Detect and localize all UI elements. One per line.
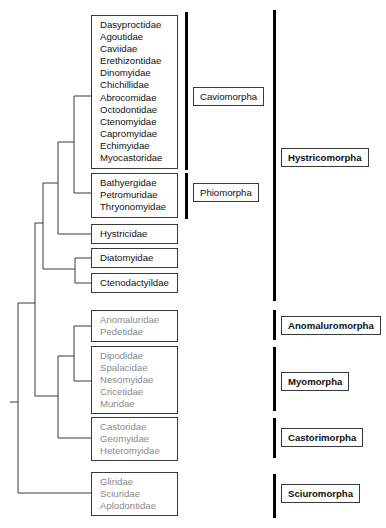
family-name: Bathyergidae [100, 177, 177, 189]
family-name: Dipodidae [100, 350, 177, 362]
family-name: Agoutidae [100, 31, 177, 43]
family-name: Erethizontidae [100, 55, 177, 67]
family-box-phiomorpha: Bathyergidae Petromuridae Thryonomyidae [91, 173, 178, 218]
family-box-ctenodactylidae: Ctenodactyildae [91, 273, 178, 293]
myomorpha-bracket-bar [273, 347, 276, 411]
family-name: Octodontidae [100, 104, 177, 116]
family-name: Chichillidae [100, 79, 177, 91]
castorimorpha-label: Castorimorpha [281, 428, 363, 447]
family-box-castorimorpha: Castoridae Geomyidae Heteromyidae [91, 417, 178, 461]
family-box-caviomorpha: Dasyproctidae Agoutidae Caviidae Erethiz… [91, 15, 178, 169]
family-box-myomorpha: Dipodidae Spalacidae Nesomyidae Cricetid… [91, 346, 178, 414]
family-box-diatomyidae: Diatomyidae [91, 248, 178, 268]
sciuromorpha-bracket-bar [273, 474, 276, 518]
family-name: Ctenomyidae [100, 116, 177, 128]
anomaluromorpha-bracket-bar [273, 310, 276, 340]
family-name: Nesomyidae [100, 374, 177, 386]
family-name: Diatomyidae [100, 252, 177, 264]
family-name: Thryonomyidae [100, 201, 177, 213]
family-name: Petromuridae [100, 189, 177, 201]
family-box-hystricidae: Hystricidae [91, 224, 178, 244]
castorimorpha-bracket-bar [273, 418, 276, 458]
family-name: Heteromyidae [100, 445, 177, 457]
family-name: Aplodontidae [100, 500, 177, 512]
caviomorpha-bracket-bar [185, 12, 188, 170]
myomorpha-label: Myomorpha [281, 372, 349, 391]
sciuromorpha-label: Sciuromorpha [281, 484, 360, 503]
family-name: Castoridae [100, 421, 177, 433]
caviomorpha-label: Caviomorpha [193, 87, 264, 106]
phiomorpha-label: Phiomorpha [193, 183, 259, 202]
family-name: Geomyidae [100, 433, 177, 445]
phiomorpha-bracket-bar [185, 173, 188, 219]
family-name: Echimyidae [100, 140, 177, 152]
family-name: Muridae [100, 398, 177, 410]
family-name: Myocastoridae [100, 152, 177, 164]
family-box-sciuromorpha: Gliridae Sciuridae Aplodontidae [91, 472, 178, 516]
family-name: Cricetidae [100, 386, 177, 398]
family-box-anomaluromorpha: Anomaluridae Pedetidae [91, 310, 178, 342]
family-name: Anomaluridae [100, 314, 177, 326]
family-name: Abrocomidae [100, 92, 177, 104]
family-name: Caviidae [100, 43, 177, 55]
hystricomorpha-bracket-bar [273, 10, 276, 301]
anomaluromorpha-label: Anomaluromorpha [281, 316, 381, 335]
family-name: Spalacidae [100, 362, 177, 374]
phylogenetic-tree-branches [0, 0, 386, 528]
family-name: Pedetidae [100, 326, 177, 338]
family-name: Sciuridae [100, 488, 177, 500]
family-name: Ctenodactyildae [100, 277, 177, 289]
family-name: Capromyidae [100, 128, 177, 140]
family-name: Dasyproctidae [100, 19, 177, 31]
family-name: Hystricidae [100, 228, 177, 240]
family-name: Dinomyidae [100, 67, 177, 79]
family-name: Gliridae [100, 476, 177, 488]
hystricomorpha-label: Hystricomorpha [281, 148, 369, 167]
